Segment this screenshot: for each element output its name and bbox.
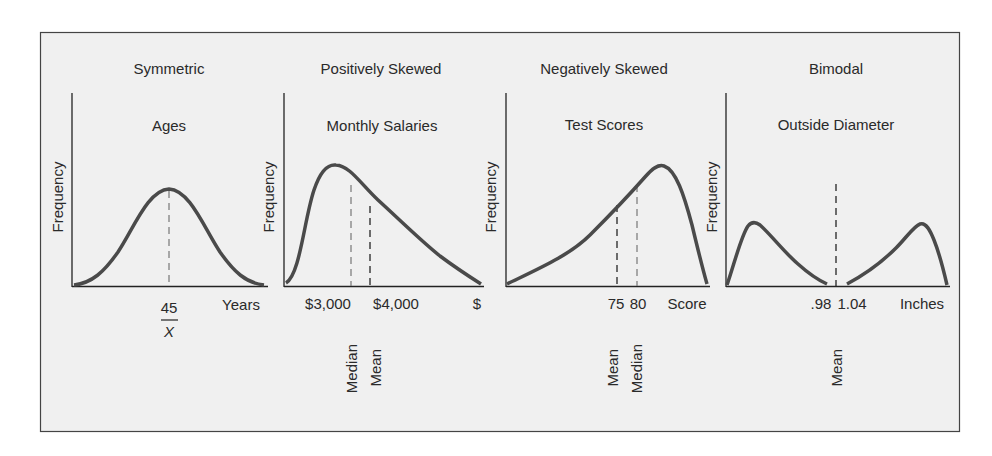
tick-label: 80 — [630, 295, 647, 312]
y-axis-label: Frequency — [703, 161, 720, 232]
tick-label: $3,000 — [305, 295, 351, 312]
panel-subtitle: Test Scores — [565, 116, 643, 133]
tick-label: 45 — [161, 299, 178, 316]
panel-title: Positively Skewed — [321, 60, 442, 77]
tick-label: .98 — [811, 295, 832, 312]
figure-frame — [41, 33, 960, 432]
x-axis-label: $ — [473, 295, 482, 312]
mean-symbol: X — [163, 323, 175, 340]
x-axis-label: Score — [667, 295, 706, 312]
distribution-shapes-figure: Symmetric Ages Frequency 45 X Years Posi… — [0, 0, 992, 456]
panel-subtitle: Outside Diameter — [778, 116, 895, 133]
y-axis-label: Frequency — [482, 161, 499, 232]
tick-label: $4,000 — [373, 295, 419, 312]
median-label: Median — [343, 344, 360, 393]
y-axis-label: Frequency — [49, 161, 66, 232]
mean-label: Mean — [604, 349, 621, 387]
tick-label: 75 — [608, 295, 625, 312]
panel-subtitle: Monthly Salaries — [327, 117, 438, 134]
mean-label: Mean — [367, 349, 384, 387]
y-axis-label: Frequency — [260, 161, 277, 232]
median-label: Median — [628, 344, 645, 393]
panel-title: Negatively Skewed — [540, 60, 668, 77]
panel-subtitle: Ages — [152, 117, 186, 134]
panel-title: Bimodal — [809, 60, 863, 77]
tick-label: 1.04 — [837, 295, 866, 312]
panel-title: Symmetric — [134, 60, 205, 77]
mean-label: Mean — [828, 349, 845, 387]
x-axis-label: Inches — [900, 295, 944, 312]
x-axis-label: Years — [222, 296, 260, 313]
